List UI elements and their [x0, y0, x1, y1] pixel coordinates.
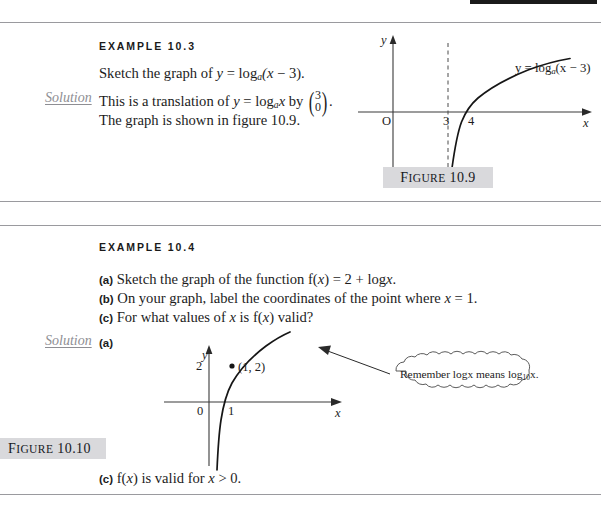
answer-c-text-2: ) is valid for: [133, 470, 208, 486]
callout-text-3: .: [536, 368, 539, 380]
callout-text-2: means log: [473, 368, 522, 380]
example-10-3-heading: EXAMPLE 10.3: [99, 40, 196, 52]
question-tail: (x − 3).: [262, 65, 305, 81]
example-10-4-part-c: (c) For what values of x is f(x) valid?: [99, 308, 313, 328]
figure-caption-word-2: FIGURE: [8, 441, 53, 457]
part-a-text-3: .: [393, 271, 397, 287]
callout-sub: 10: [522, 373, 530, 382]
question-eq: = log: [223, 65, 257, 81]
curve-label-tail: (x − 3): [556, 61, 591, 75]
callout-text-1: Remember log: [400, 368, 467, 380]
sol1-a: This is a translation of: [99, 93, 233, 109]
figure-10-9-graph: [340, 30, 600, 170]
question-prefix: Sketch the graph of: [99, 65, 217, 81]
column-vector: (30): [307, 90, 329, 114]
solution-part-a-tag: (a): [99, 334, 113, 353]
x-axis-arrowhead: [331, 398, 342, 406]
x-axis-arrowhead: [582, 108, 592, 116]
rule-top: [0, 22, 601, 23]
example-10-3-question: Sketch the graph of y = loga(x − 3).: [99, 64, 305, 86]
figure-caption-number-1: 10.9: [450, 170, 476, 186]
figure-10-9-y-axis-label: y: [381, 33, 387, 48]
answer-c-text-3: > 0.: [215, 470, 241, 486]
part-a-text-2: ) = 2 + log: [324, 271, 386, 287]
example-10-4-answer-c: (c) f(x) is valid for x > 0.: [99, 469, 241, 489]
part-a-text-1: Sketch the graph of the function f(: [113, 271, 318, 287]
vector-paren-right: ): [322, 95, 328, 110]
part-a-tag: (a): [99, 274, 113, 286]
callout-arrow-line: [325, 350, 390, 374]
part-b-tag: (b): [99, 293, 114, 305]
figure-10-10-y-axis-label: y: [202, 348, 208, 363]
top-black-bar: [470, 0, 597, 4]
part-b-text-2: = 1.: [451, 290, 477, 306]
solution-label-1: Solution: [45, 90, 92, 106]
callout-bubble-text: Remember logx means log10x.: [400, 368, 539, 382]
figure-caption-word-1: FIGURE: [400, 170, 445, 186]
sol1-b: = log: [240, 93, 274, 109]
part-c-tag: (c): [99, 312, 113, 324]
vector-paren-left: (: [309, 95, 315, 110]
part-c-text-3: ) valid?: [269, 309, 313, 325]
y-axis-arrowhead: [390, 35, 397, 44]
sol1-d: .: [329, 93, 333, 109]
figure-10-9-tick-label-4: 4: [468, 114, 474, 129]
solution-label-2: Solution: [45, 333, 92, 349]
vector-bottom: 0: [315, 102, 321, 114]
figure-10-9-x-axis-label: x: [583, 116, 589, 131]
figure-10-9-tick-label-3: 3: [443, 114, 449, 129]
callout-arrowhead: [318, 346, 331, 356]
figure-10-10-caption: FIGURE 10.10: [0, 438, 106, 459]
answer-c-tag: (c): [99, 473, 113, 485]
figure-10-10-point-label: (1, 2): [238, 360, 265, 375]
figure-10-9-origin-label: O: [382, 114, 391, 129]
example-10-4-part-b: (b) On your graph, label the coordinates…: [99, 289, 477, 309]
point-marker-1-2: [229, 363, 234, 368]
part-b-text-1: On your graph, label the coordinates of …: [114, 290, 445, 306]
answer-c-text-1: f(: [113, 470, 126, 486]
rule-bottom: [0, 494, 601, 495]
figure-10-10-tick-label-1: 1: [228, 404, 234, 419]
curve-label-eq: = log: [521, 61, 551, 75]
log-curve: [217, 332, 290, 470]
textbook-page: EXAMPLE 10.3 Sketch the graph of y = log…: [0, 0, 601, 507]
sol1-c: by: [285, 93, 307, 109]
figure-10-9-curve-equation-label: y = loga(x − 3): [515, 61, 591, 76]
figure-10-10-tick-label-2: 2: [196, 359, 202, 374]
part-c-text-2: is f(: [236, 309, 263, 325]
rule-example1-bottom: [0, 201, 601, 202]
part-c-text-1: For what values of: [113, 309, 229, 325]
figure-10-10-origin-label: 0: [197, 404, 203, 419]
figure-10-10-x-axis-label: x: [335, 406, 341, 421]
vector-numbers: 30: [315, 90, 321, 114]
example-10-4-part-a: (a) Sketch the graph of the function f(x…: [99, 270, 396, 290]
figure-10-9-caption: FIGURE 10.9: [383, 167, 493, 188]
example-10-4-heading: EXAMPLE 10.4: [99, 241, 196, 253]
rule-example2-top: [0, 225, 601, 226]
figure-caption-number-2: 10.10: [57, 441, 91, 457]
figure-10-10-graph: [150, 330, 380, 470]
example-10-3-solution-line-2: The graph is shown in figure 10.9.: [99, 111, 300, 130]
